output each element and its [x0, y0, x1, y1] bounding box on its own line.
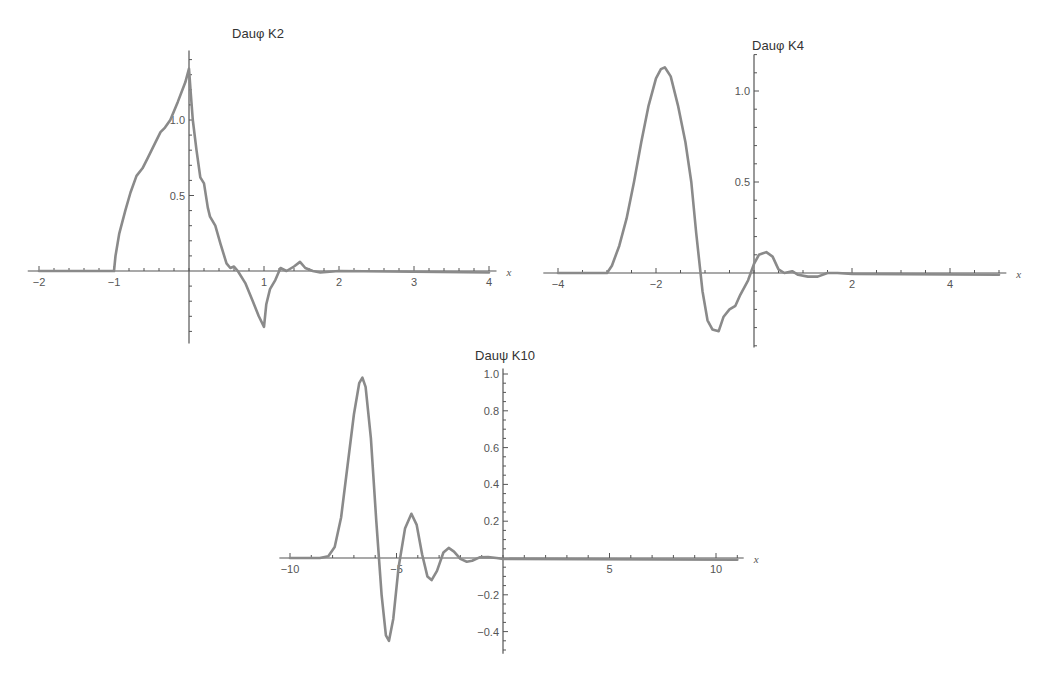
y-tick-label: 0.5	[170, 190, 185, 202]
x-axis-label: x	[506, 266, 512, 278]
axes-group	[279, 368, 743, 653]
y-tick-label: 0.6	[484, 442, 499, 454]
tick-labels: −4−2240.51.0	[552, 85, 953, 290]
y-tick-label: −0.4	[477, 626, 499, 638]
x-tick-label: 4	[486, 276, 492, 288]
x-tick-label: −4	[552, 278, 565, 290]
axes-group	[28, 51, 497, 344]
x-tick-label: −5	[390, 563, 403, 575]
series-line	[558, 67, 999, 331]
chart-k4: Dauφ K4 −4−2240.51.0 x	[543, 38, 1021, 348]
x-tick-label: −2	[650, 278, 663, 290]
chart-k10: Dauψ K10 −10−5510−0.4−0.20.20.40.60.81.0…	[279, 348, 758, 654]
x-tick-label: −10	[281, 563, 300, 575]
y-tick-label: 0.4	[484, 478, 499, 490]
x-tick-label: 4	[947, 278, 953, 290]
axes-group	[543, 55, 1006, 348]
series-line	[39, 69, 489, 327]
figure-canvas: Dauφ K2 −2−112340.51.0 x Dauφ K4 −4−2240…	[0, 0, 1063, 679]
x-tick-label: 1	[261, 276, 267, 288]
y-tick-label: −0.2	[477, 589, 499, 601]
y-tick-label: 0.5	[735, 176, 750, 188]
x-axis-label: x	[753, 553, 759, 565]
y-tick-label: 1.0	[484, 368, 499, 380]
tick-labels: −10−5510−0.4−0.20.20.40.60.81.0	[281, 368, 722, 638]
x-tick-label: 10	[710, 563, 722, 575]
tick-labels: −2−112340.51.0	[33, 114, 492, 288]
y-tick-label: 1.0	[735, 85, 750, 97]
x-tick-label: 2	[849, 278, 855, 290]
x-axis-label: x	[1015, 268, 1021, 280]
y-tick-label: 0.8	[484, 405, 499, 417]
x-tick-label: −2	[33, 276, 46, 288]
y-tick-label: 0.2	[484, 515, 499, 527]
chart-title: Dauφ K4	[752, 38, 804, 53]
chart-title: Dauφ K2	[232, 26, 284, 41]
x-tick-label: 2	[336, 276, 342, 288]
chart-k2: Dauφ K2 −2−112340.51.0 x	[28, 26, 512, 343]
x-tick-label: 5	[606, 563, 612, 575]
chart-title: Dauψ K10	[475, 348, 535, 363]
x-tick-label: 3	[411, 276, 417, 288]
x-tick-label: −1	[108, 276, 121, 288]
series-line	[290, 378, 737, 641]
